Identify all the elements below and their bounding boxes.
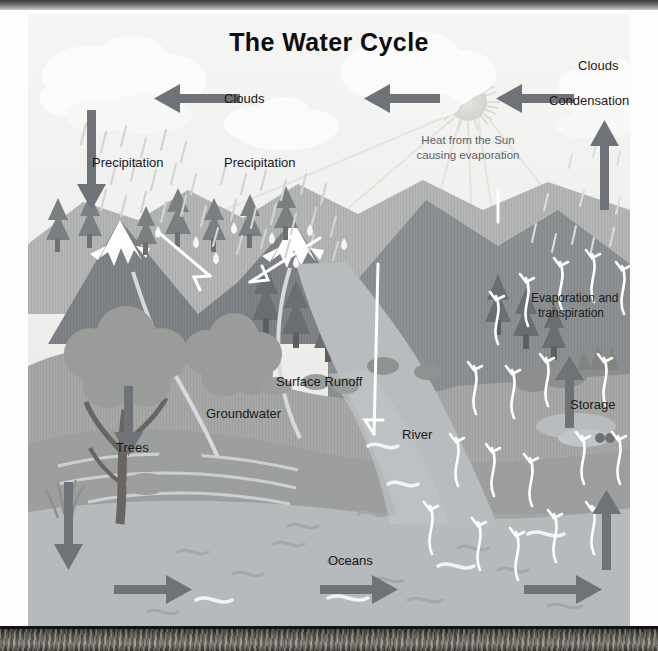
label-precipitation-left: Precipitation <box>92 156 164 171</box>
label-sun-note-line1: Heat from the Sun <box>409 134 527 147</box>
page-bottom-strip <box>0 626 658 651</box>
label-surface-runoff: Surface Runoff <box>276 375 362 390</box>
label-river: River <box>402 428 432 443</box>
label-clouds-left: Clouds <box>224 92 264 107</box>
page-margin-right <box>630 10 658 626</box>
label-storage: Storage <box>570 398 616 413</box>
label-precipitation-right: Precipitation <box>224 156 296 171</box>
page-top-bar <box>0 0 658 10</box>
label-clouds-right: Clouds <box>578 59 618 74</box>
label-oceans: Oceans <box>328 554 373 569</box>
diagram-title: The Water Cycle <box>28 28 630 57</box>
label-evaporation-line1: Evaporation and <box>531 292 618 306</box>
label-sun-note-line2: causing evaporation <box>409 149 527 162</box>
label-condensation: Condensation <box>549 94 629 109</box>
water-cycle-page: The Water Cycle Clouds Clouds Condensati… <box>0 0 658 651</box>
label-groundwater: Groundwater <box>206 407 281 422</box>
water-cycle-illustration: The Water Cycle Clouds Clouds Condensati… <box>28 14 630 626</box>
label-evaporation-line2: transpiration <box>538 307 604 321</box>
page-margin-left <box>0 10 28 626</box>
label-trees: Trees <box>116 441 149 456</box>
